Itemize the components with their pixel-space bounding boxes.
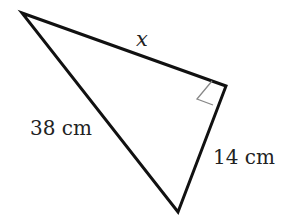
right-angle-marker bbox=[197, 81, 213, 105]
label-hypotenuse: 38 cm bbox=[30, 116, 92, 140]
triangle-diagram: x 38 cm 14 cm bbox=[0, 0, 297, 223]
triangle bbox=[22, 13, 226, 212]
label-x: x bbox=[136, 27, 148, 51]
label-short-side: 14 cm bbox=[213, 145, 275, 169]
